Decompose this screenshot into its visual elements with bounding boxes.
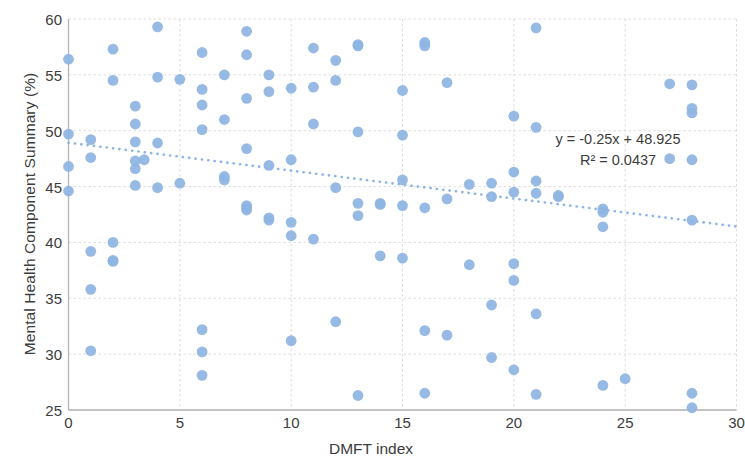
data-point bbox=[330, 316, 341, 327]
data-point bbox=[286, 335, 297, 346]
data-point bbox=[85, 345, 96, 356]
data-point bbox=[486, 191, 497, 202]
data-point bbox=[63, 161, 74, 172]
data-point bbox=[598, 221, 609, 232]
data-point bbox=[330, 55, 341, 66]
data-point bbox=[286, 230, 297, 241]
data-point bbox=[174, 74, 185, 85]
y-axis-tick-labels: 6055504540353025 bbox=[0, 0, 62, 464]
data-point bbox=[330, 75, 341, 86]
data-point bbox=[375, 199, 386, 210]
y-axis-tick-label: 60 bbox=[18, 11, 62, 28]
data-point bbox=[508, 364, 519, 375]
data-point bbox=[139, 154, 150, 165]
data-point bbox=[197, 370, 208, 381]
data-point bbox=[130, 119, 141, 130]
x-axis-tick-label: 15 bbox=[394, 414, 411, 431]
data-point bbox=[464, 179, 475, 190]
y-axis-tick-label: 40 bbox=[18, 234, 62, 251]
trendline-r2: R² = 0.0437 bbox=[528, 150, 708, 171]
data-point bbox=[308, 234, 319, 245]
data-point bbox=[174, 178, 185, 189]
data-point bbox=[598, 207, 609, 218]
data-point bbox=[108, 44, 119, 55]
data-point bbox=[108, 255, 119, 266]
data-point bbox=[353, 390, 364, 401]
data-point bbox=[442, 330, 453, 341]
data-point bbox=[687, 80, 698, 91]
data-point bbox=[375, 250, 386, 261]
data-point bbox=[197, 124, 208, 135]
data-point bbox=[152, 72, 163, 83]
data-point bbox=[442, 77, 453, 88]
data-point bbox=[486, 300, 497, 311]
data-point bbox=[264, 69, 275, 80]
data-point bbox=[687, 215, 698, 226]
data-point bbox=[264, 215, 275, 226]
data-point bbox=[197, 47, 208, 58]
data-point bbox=[85, 134, 96, 145]
data-point bbox=[241, 205, 252, 216]
data-point bbox=[419, 40, 430, 51]
data-point bbox=[197, 324, 208, 335]
x-axis-tick-label: 25 bbox=[617, 414, 634, 431]
data-point bbox=[598, 380, 609, 391]
data-point bbox=[152, 182, 163, 193]
y-axis-tick-label: 30 bbox=[18, 346, 62, 363]
data-point bbox=[130, 180, 141, 191]
data-point bbox=[264, 160, 275, 171]
data-point bbox=[308, 43, 319, 54]
data-point bbox=[508, 167, 519, 178]
data-point bbox=[486, 352, 497, 363]
data-point bbox=[130, 101, 141, 112]
data-point bbox=[397, 200, 408, 211]
data-point bbox=[85, 152, 96, 163]
data-point bbox=[464, 259, 475, 270]
data-point bbox=[442, 193, 453, 204]
data-point bbox=[108, 75, 119, 86]
data-point bbox=[687, 388, 698, 399]
data-point bbox=[286, 217, 297, 228]
x-axis-tick-label: 20 bbox=[505, 414, 522, 431]
data-point bbox=[687, 402, 698, 413]
data-point bbox=[241, 49, 252, 60]
data-point bbox=[508, 187, 519, 198]
data-point bbox=[197, 347, 208, 358]
data-point bbox=[353, 198, 364, 209]
data-point bbox=[219, 114, 230, 125]
data-point bbox=[397, 130, 408, 141]
data-point bbox=[353, 40, 364, 51]
y-axis-tick-label: 50 bbox=[18, 122, 62, 139]
data-point bbox=[130, 136, 141, 147]
x-axis-tick-label: 5 bbox=[176, 414, 184, 431]
data-point bbox=[130, 163, 141, 174]
data-point bbox=[397, 85, 408, 96]
data-point bbox=[241, 26, 252, 37]
data-point bbox=[531, 176, 542, 187]
data-point bbox=[308, 119, 319, 130]
data-point bbox=[531, 309, 542, 320]
y-axis-tick-label: 35 bbox=[18, 290, 62, 307]
y-axis-tick-label: 45 bbox=[18, 178, 62, 195]
data-point bbox=[63, 186, 74, 197]
data-point bbox=[330, 182, 341, 193]
data-point bbox=[687, 107, 698, 118]
data-point bbox=[353, 210, 364, 221]
data-point bbox=[63, 129, 74, 140]
data-point bbox=[197, 100, 208, 111]
data-point bbox=[219, 69, 230, 80]
x-axis-tick-label: 0 bbox=[64, 414, 72, 431]
data-point bbox=[85, 284, 96, 295]
data-point bbox=[531, 188, 542, 199]
data-point bbox=[419, 202, 430, 213]
data-point bbox=[486, 178, 497, 189]
y-axis-tick-label: 55 bbox=[18, 66, 62, 83]
data-point bbox=[419, 388, 430, 399]
data-point bbox=[241, 143, 252, 154]
data-point bbox=[419, 325, 430, 336]
data-point bbox=[508, 258, 519, 269]
data-point bbox=[397, 253, 408, 264]
x-axis-tick-label: 30 bbox=[728, 414, 745, 431]
data-point bbox=[152, 21, 163, 32]
